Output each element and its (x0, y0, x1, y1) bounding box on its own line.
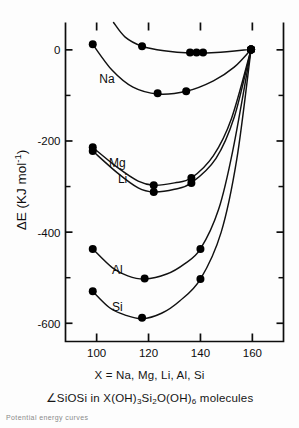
series-label: Si (112, 300, 123, 314)
y-tick-label: -400 (37, 227, 60, 239)
page-fragment-text: Potential energy curves (6, 414, 88, 421)
series-label: Mg (109, 156, 126, 170)
y-axis-title: ΔE (KJ mol-1) (12, 150, 29, 230)
data-point (138, 314, 146, 322)
x-axis-caption-prefix: X = (94, 369, 116, 381)
x-axis-caption: X = Na, Mg, Li, Al, Si (0, 369, 299, 381)
caption-part-d: molecules (196, 392, 253, 404)
data-point (141, 275, 149, 283)
x-tick-label: 120 (139, 347, 158, 359)
data-point (89, 147, 97, 155)
y-axis-title-text: ΔE (KJ mol-1) (12, 150, 29, 230)
data-point (150, 188, 158, 196)
data-point (196, 275, 204, 283)
caption-part-b: Si (142, 392, 153, 404)
x-tick-label: 100 (87, 347, 106, 359)
chart-plot: 0-200-400-600100120140160 ΔE (KJ mol-1) … (0, 0, 299, 428)
caption-part-c: O(OH) (157, 392, 192, 404)
figure-caption: ∠SiOSi in X(OH)3Si2O(OH)6 molecules (0, 391, 299, 406)
data-point (247, 45, 255, 53)
axis-frame (66, 23, 284, 342)
data-point (138, 42, 146, 50)
y-tick-label: -600 (37, 318, 60, 330)
series-label-layer: NaMgLiAlSi (99, 72, 127, 314)
figure-container: 0-200-400-600100120140160 ΔE (KJ mol-1) … (0, 0, 299, 428)
data-point (89, 245, 97, 253)
data-point (154, 89, 162, 97)
data-point (196, 245, 204, 253)
data-point (187, 179, 195, 187)
y-tick-label: -200 (37, 135, 60, 147)
series-label: Li (118, 172, 127, 186)
data-curve (114, 23, 252, 54)
series-label: Na (99, 72, 115, 86)
x-tick-label: 140 (191, 347, 210, 359)
y-tick-label: 0 (54, 44, 60, 56)
x-axis-caption-values: Na, Mg, Li, Al, Si (116, 369, 205, 381)
angle-symbol: ∠ (46, 392, 57, 404)
data-point (89, 40, 97, 48)
x-tick-label: 160 (243, 347, 262, 359)
data-curve (93, 49, 251, 192)
series-label: Al (112, 263, 123, 277)
data-point (199, 49, 207, 57)
caption-part-a: SiOSi in X(OH) (57, 392, 137, 404)
y-axis-label: ΔE (KJ mol-1) (12, 150, 29, 230)
data-point (150, 181, 158, 189)
data-point (89, 287, 97, 295)
data-point (182, 87, 190, 95)
